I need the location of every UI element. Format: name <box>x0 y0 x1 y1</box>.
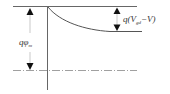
barrier-height-label: qφm <box>19 38 32 48</box>
band-bending-label: q(Vgd−V) <box>123 15 156 25</box>
right-double-arrow <box>114 8 121 32</box>
